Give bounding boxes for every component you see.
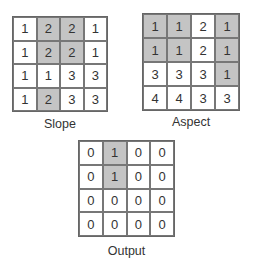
- slope-cell-r2-c1: 1: [13, 41, 37, 65]
- output-cell-r4-c1: 0: [79, 212, 103, 236]
- aspect-label: Aspect: [142, 115, 240, 129]
- output-cell-r3-c4: 0: [150, 189, 174, 213]
- aspect-cell-r1-c4: 1: [215, 14, 239, 38]
- output-cell-r2-c3: 0: [127, 165, 151, 189]
- output-cell-r1-c1: 0: [79, 141, 103, 165]
- aspect-cell-r1-c2: 1: [167, 14, 191, 38]
- output-cell-r2-c1: 0: [79, 165, 103, 189]
- aspect-cell-r3-c2: 3: [167, 62, 191, 86]
- slope-grid: 1221122111331233: [12, 16, 108, 112]
- slope-cell-r1-c3: 2: [60, 17, 84, 41]
- aspect-cell-r1-c1: 1: [143, 14, 167, 38]
- slope-cell-r4-c4: 3: [84, 88, 108, 112]
- slope-cell-r4-c3: 3: [60, 88, 84, 112]
- aspect-cell-r2-c3: 2: [191, 38, 215, 62]
- slope-cell-r3-c2: 1: [37, 64, 61, 88]
- aspect-cell-r2-c2: 1: [167, 38, 191, 62]
- aspect-cell-r3-c4: 1: [215, 62, 239, 86]
- aspect-cell-r2-c4: 1: [215, 38, 239, 62]
- aspect-cell-r3-c1: 3: [143, 62, 167, 86]
- output-cell-r4-c2: 0: [103, 212, 127, 236]
- aspect-cell-r4-c4: 3: [215, 86, 239, 110]
- slope-cell-r3-c3: 3: [60, 64, 84, 88]
- slope-cell-r3-c1: 1: [13, 64, 37, 88]
- slope-cell-r1-c2: 2: [37, 17, 61, 41]
- aspect-cell-r2-c1: 1: [143, 38, 167, 62]
- slope-cell-r1-c1: 1: [13, 17, 37, 41]
- output-cell-r3-c2: 0: [103, 189, 127, 213]
- aspect-cell-r4-c2: 4: [167, 86, 191, 110]
- output-cell-r4-c4: 0: [150, 212, 174, 236]
- slope-cell-r2-c3: 2: [60, 41, 84, 65]
- aspect-cell-r1-c3: 2: [191, 14, 215, 38]
- output-cell-r4-c3: 0: [127, 212, 151, 236]
- aspect-cell-r3-c3: 3: [191, 62, 215, 86]
- slope-cell-r1-c4: 1: [84, 17, 108, 41]
- slope-cell-r2-c4: 1: [84, 41, 108, 65]
- aspect-cell-r4-c1: 4: [143, 86, 167, 110]
- output-grid: 0100010000000000: [78, 140, 175, 237]
- slope-cell-r4-c1: 1: [13, 88, 37, 112]
- output-cell-r2-c4: 0: [150, 165, 174, 189]
- output-cell-r3-c1: 0: [79, 189, 103, 213]
- slope-cell-r3-c4: 3: [84, 64, 108, 88]
- output-cell-r2-c2: 1: [103, 165, 127, 189]
- slope-cell-r4-c2: 2: [37, 88, 61, 112]
- output-cell-r3-c3: 0: [127, 189, 151, 213]
- output-cell-r1-c3: 0: [127, 141, 151, 165]
- output-label: Output: [78, 244, 175, 258]
- slope-cell-r2-c2: 2: [37, 41, 61, 65]
- output-cell-r1-c4: 0: [150, 141, 174, 165]
- aspect-grid: 1121112133314433: [142, 13, 240, 111]
- output-cell-r1-c2: 1: [103, 141, 127, 165]
- aspect-cell-r4-c3: 3: [191, 86, 215, 110]
- slope-label: Slope: [12, 117, 108, 131]
